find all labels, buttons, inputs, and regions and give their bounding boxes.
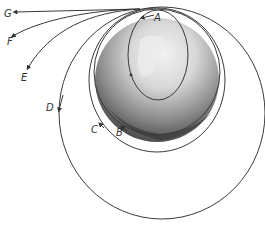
label-f: F [7, 36, 13, 47]
label-d: D [46, 102, 54, 113]
label-e: E [21, 72, 28, 83]
label-g: G [4, 8, 12, 19]
label-a: A [153, 12, 161, 23]
orbit-a-marker [130, 74, 133, 77]
label-c: C [91, 124, 98, 135]
label-b: B [116, 127, 123, 138]
orbit-diagram: A B C D E F G [0, 0, 265, 225]
